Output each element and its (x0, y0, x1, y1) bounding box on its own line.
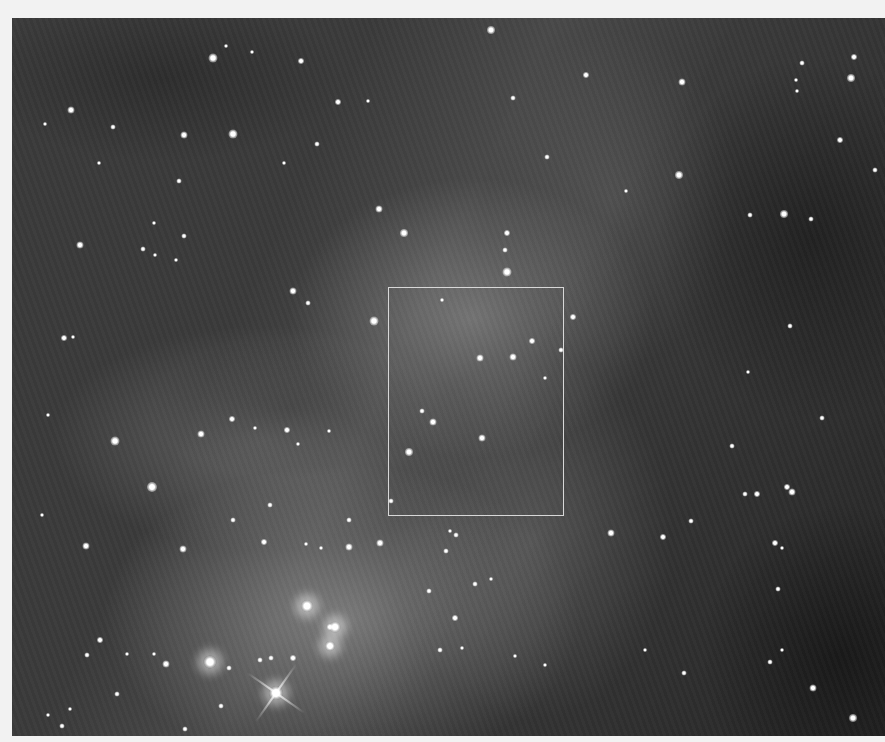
star (77, 242, 84, 249)
star (503, 248, 508, 253)
star (229, 130, 238, 139)
region-of-interest-box (388, 287, 564, 516)
star (452, 615, 458, 621)
star (460, 646, 464, 650)
star (325, 641, 335, 651)
star (810, 685, 817, 692)
star (125, 652, 129, 656)
star (250, 50, 254, 54)
star (180, 546, 187, 553)
nebula-photograph (12, 18, 885, 736)
star (219, 704, 224, 709)
star (290, 655, 296, 661)
star (268, 503, 273, 508)
star (503, 268, 512, 277)
star (269, 656, 274, 661)
star (198, 431, 205, 438)
star (258, 658, 263, 663)
star (679, 79, 686, 86)
star (643, 648, 647, 652)
star (183, 727, 188, 732)
star (511, 96, 516, 101)
star (141, 247, 146, 252)
star (152, 221, 156, 225)
star (809, 217, 814, 222)
star (46, 713, 50, 717)
star (780, 210, 788, 218)
star (504, 230, 510, 236)
star (181, 132, 188, 139)
star (849, 714, 857, 722)
star (513, 654, 517, 658)
star (301, 600, 313, 612)
star (438, 648, 443, 653)
star (319, 546, 323, 550)
star (315, 142, 320, 147)
star (748, 213, 753, 218)
star (298, 58, 304, 64)
star (152, 652, 156, 656)
star (789, 489, 796, 496)
star (282, 161, 286, 165)
star (780, 546, 784, 550)
star (473, 582, 478, 587)
star (97, 637, 103, 643)
star (229, 416, 235, 422)
star (111, 437, 120, 446)
star (377, 540, 384, 547)
star (837, 137, 843, 143)
star (851, 54, 857, 60)
star (454, 533, 459, 538)
star (448, 529, 452, 533)
star (754, 491, 760, 497)
star (743, 492, 748, 497)
star (111, 125, 116, 130)
star (182, 234, 187, 239)
star (71, 335, 75, 339)
star (261, 539, 267, 545)
star (330, 622, 341, 633)
star (800, 61, 805, 66)
star (306, 301, 311, 306)
star (346, 544, 353, 551)
star (227, 666, 232, 671)
star (608, 530, 615, 537)
star (794, 78, 798, 82)
star (43, 122, 47, 126)
star (83, 543, 90, 550)
star (543, 663, 547, 667)
star (61, 335, 67, 341)
star (68, 107, 75, 114)
star (682, 671, 687, 676)
star (427, 589, 432, 594)
star (163, 661, 170, 668)
star (40, 513, 44, 517)
star (115, 692, 120, 697)
star (209, 54, 218, 63)
star (489, 577, 493, 581)
star (366, 99, 370, 103)
star (487, 26, 495, 34)
star (583, 72, 589, 78)
star (284, 427, 290, 433)
star (147, 482, 157, 492)
star (370, 317, 379, 326)
star (97, 161, 101, 165)
star (780, 648, 784, 652)
star (545, 155, 550, 160)
star (68, 707, 72, 711)
star (231, 518, 236, 523)
star (768, 660, 773, 665)
star (347, 518, 352, 523)
star (788, 324, 793, 329)
star (290, 288, 297, 295)
star (177, 179, 182, 184)
star (772, 540, 778, 546)
star (46, 413, 50, 417)
star (304, 542, 308, 546)
star (746, 370, 750, 374)
star (795, 89, 799, 93)
star (204, 656, 217, 669)
star (689, 519, 694, 524)
star (675, 171, 683, 179)
